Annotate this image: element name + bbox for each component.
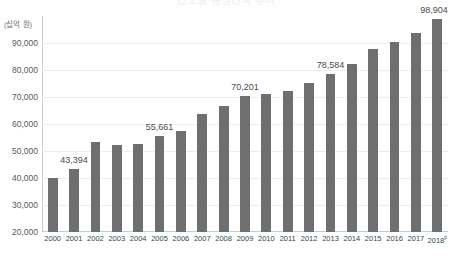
- bar-value-label: 43,394: [60, 155, 88, 165]
- x-axis-tick-label: 2015: [365, 234, 382, 243]
- bar: [390, 42, 400, 232]
- bar: [368, 49, 378, 232]
- bar: [48, 178, 58, 232]
- plot-area: 43,39455,66170,20178,58498,904: [42, 16, 448, 232]
- x-axis-tick-label: 2003: [108, 234, 125, 243]
- y-axis-tick-label: 40,000: [0, 173, 38, 183]
- bar-series: 43,39455,66170,20178,58498,904: [42, 16, 448, 232]
- y-axis-tick-label: 20,000: [0, 227, 38, 237]
- x-axis-tick-label: 2000: [44, 234, 61, 243]
- bar: [69, 169, 79, 232]
- y-axis-tick-label: 50,000: [0, 146, 38, 156]
- x-axis-tick-label: 2006: [173, 234, 190, 243]
- bar: [219, 106, 229, 232]
- bar-value-label: 98,904: [420, 5, 448, 15]
- bar: [91, 142, 101, 232]
- y-axis-tick-label: 90,000: [0, 38, 38, 48]
- x-axis-tick-label: 2017: [408, 234, 425, 243]
- bar: [261, 94, 271, 233]
- bar: [176, 131, 186, 232]
- bar: [283, 91, 293, 232]
- x-axis-tick-label: 2018p: [428, 234, 447, 245]
- bar-chart-figure: 연도별 총생산액 추이 (십억 원) 90,00080,00070,00060,…: [0, 0, 452, 263]
- x-axis-tick-label: 2012: [301, 234, 318, 243]
- y-axis-tick-label: 70,000: [0, 92, 38, 102]
- bar: [112, 145, 122, 232]
- bar-value-label: 70,201: [231, 82, 259, 92]
- x-axis-tick-label: 2013: [322, 234, 339, 243]
- x-axis-tick-label: 2005: [151, 234, 168, 243]
- bar-value-label: 55,661: [146, 122, 174, 132]
- x-axis-tick-label: 2001: [66, 234, 83, 243]
- bar: [240, 96, 250, 232]
- bar-value-label: 78,584: [317, 60, 345, 70]
- bar: [197, 114, 207, 232]
- y-axis-tick-label: 30,000: [0, 200, 38, 210]
- y-axis-tick-label: 60,000: [0, 119, 38, 129]
- x-axis-tick-label: 2016: [386, 234, 403, 243]
- bar: [326, 74, 336, 232]
- bar: [155, 136, 165, 232]
- bar: [347, 64, 357, 232]
- chart-title: 연도별 총생산액 추이: [0, 0, 452, 7]
- bar: [304, 83, 314, 232]
- x-axis-tick-label: 2008: [215, 234, 232, 243]
- bar: [411, 33, 421, 232]
- y-axis-tick-labels: 90,00080,00070,00060,00050,00040,00030,0…: [0, 16, 38, 232]
- y-axis-tick-label: 80,000: [0, 65, 38, 75]
- x-axis-tick-label: 2007: [194, 234, 211, 243]
- x-axis-tick-label: 2011: [280, 234, 296, 243]
- x-axis-tick-label: 2009: [237, 234, 254, 243]
- bar: [133, 144, 143, 232]
- x-axis-tick-labels: 2000200120022003200420052006200720082009…: [42, 234, 448, 250]
- x-axis-tick-label: 2010: [258, 234, 275, 243]
- x-axis-tick-label: 2014: [343, 234, 360, 243]
- x-axis-tick-label: 2002: [87, 234, 104, 243]
- x-axis-tick-label: 2004: [130, 234, 147, 243]
- bar: [432, 19, 442, 232]
